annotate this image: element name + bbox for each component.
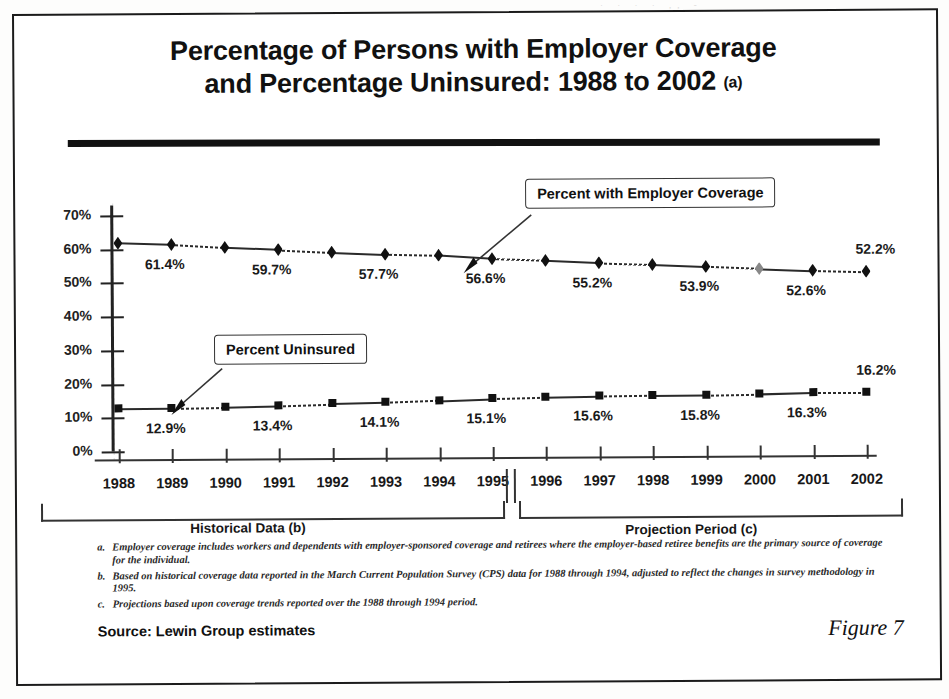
period-separator-left [506,469,508,503]
footnote-marker: b. [97,570,111,583]
data-point-label: 14.1% [360,414,400,430]
x-axis-tick [226,449,228,463]
chart-title-line2: and Percentage Uninsured: 1988 to 2002 [204,66,716,99]
footnote-text: Based on historical coverage data report… [112,565,897,595]
data-point-marker [594,256,603,269]
x-axis-year-label: 1991 [255,474,303,490]
x-axis-tick [279,448,281,462]
x-axis-year-label: 1997 [576,472,624,488]
series-line-segment [759,392,812,395]
data-point-marker [381,248,390,261]
data-point-label: 52.2% [855,241,895,257]
series-line-segment [653,394,706,397]
series-line-segment [599,395,652,398]
data-point-marker [808,264,817,277]
data-point-label: 12.9% [146,419,186,435]
series-line-segment [439,398,492,402]
data-point-marker [328,399,336,407]
x-axis-year-label: 1992 [309,474,357,490]
data-point-label: 57.7% [359,266,399,282]
y-axis-tick-label: 10% [46,409,92,425]
x-axis-tick [546,447,548,461]
data-series-layer [13,158,935,164]
data-point-label: 15.8% [680,406,720,422]
y-axis-tick-label: 50% [46,274,92,290]
footnotes: a.Employer coverage includes workers and… [97,537,897,615]
x-axis-year-label: 1990 [202,475,250,491]
chart-title: Percentage of Persons with Employer Cove… [12,30,934,102]
y-axis-tick [101,316,124,318]
x-axis-tick [119,449,121,463]
data-point-label: 61.4% [145,256,185,272]
series-line-segment [385,254,438,257]
data-point-marker [755,262,764,275]
data-point-marker [701,260,710,273]
footnote-text: Employer coverage includes workers and d… [112,537,897,567]
x-axis-tick [439,447,441,461]
data-point-marker [755,389,763,397]
x-axis-year-label: 2001 [789,471,837,487]
data-labels-layer: 61.4%59.7%57.7%56.6%55.2%53.9%52.6%52.2%… [13,158,935,164]
y-axis-tick [101,418,124,420]
data-point-marker [220,241,229,254]
x-axis-ticks [13,158,935,164]
data-point-label: 53.9% [679,278,719,294]
x-axis-year-label: 2000 [736,471,784,487]
series-line-segment [546,396,599,399]
period-separator-right [514,469,516,503]
data-point-marker [702,390,710,398]
historical-bracket-label: Historical Data (b) [190,520,306,536]
x-axis-tick [867,445,869,459]
data-point-label: 59.7% [252,261,292,277]
data-point-label: 16.2% [856,362,896,378]
data-point-marker [488,394,496,402]
data-point-label: 16.3% [787,404,827,420]
y-axis-tick-label: 0% [47,443,93,459]
x-axis-year-label: 1989 [148,475,196,491]
x-axis-year-label: 1999 [683,472,731,488]
figure-number: Figure 7 [828,615,904,641]
figure-page: · · · · ,, - Percentage of Persons with … [0,0,949,699]
callout-uninsured-arrow [164,367,234,417]
data-point-marker [114,404,122,412]
data-point-marker [274,243,283,256]
footnote-row: a.Employer coverage includes workers and… [97,537,897,567]
y-axis-tick [100,249,123,251]
x-axis-year-labels: 1988198919901991199219931994199519961997… [15,470,937,502]
series-line-segment [278,249,332,254]
callout-employer-coverage: Percent with Employer Coverage [525,177,776,209]
series-line-segment [117,243,170,246]
series-line-segment [706,393,759,396]
x-axis-year-label: 1996 [522,473,570,489]
footnote-text: Projections based upon coverage trends r… [113,594,898,612]
source-line: Source: Lewin Group estimates [98,622,316,639]
series-line-segment [279,404,332,408]
series-line-segment [813,392,866,394]
y-axis-tick-label: 30% [46,341,92,357]
footnote-marker: c. [98,599,112,612]
x-axis-tick [706,446,708,460]
x-axis-tick [653,446,655,460]
figure-content: Percentage of Persons with Employer Cove… [12,8,938,682]
x-axis-tick [599,446,601,460]
footnote-row: b.Based on historical coverage data repo… [97,565,897,595]
x-axis-tick [332,448,334,462]
chart-title-line1: Percentage of Persons with Employer Cove… [170,32,777,66]
data-point-label: 15.6% [573,408,613,424]
x-axis-year-label: 1988 [95,475,143,491]
data-point-marker [275,401,283,409]
x-axis-year-label: 1993 [362,474,410,490]
series-line-segment [224,247,278,251]
y-axis-tick [101,350,124,352]
data-point-marker [167,238,176,251]
series-line-segment [545,260,599,264]
data-point-marker [862,265,871,278]
series-line-segment [598,262,651,266]
x-axis-year-label: 1998 [629,472,677,488]
y-axis-tick [101,283,124,285]
y-axis-labels: 70%60%50%40%30%20%10%0% [13,158,935,164]
y-axis-tick [102,451,125,453]
data-point-label: 15.1% [466,410,506,426]
series-line-segment [385,400,438,404]
x-axis-tick [493,447,495,461]
